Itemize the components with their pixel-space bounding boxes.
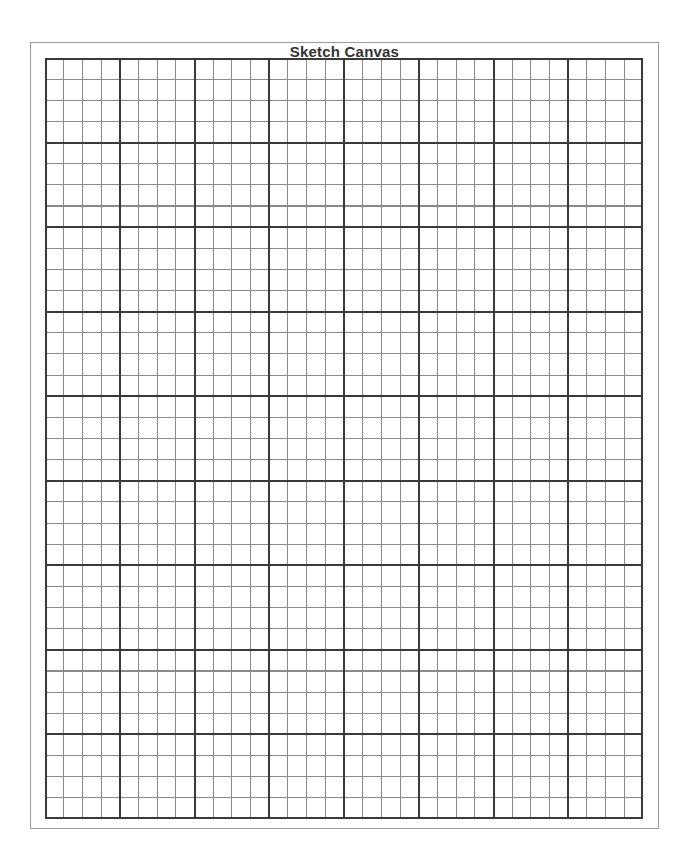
- grid-lines: [45, 58, 643, 819]
- sketch-grid[interactable]: [45, 58, 643, 819]
- canvas-title: Sketch Canvas: [31, 44, 658, 59]
